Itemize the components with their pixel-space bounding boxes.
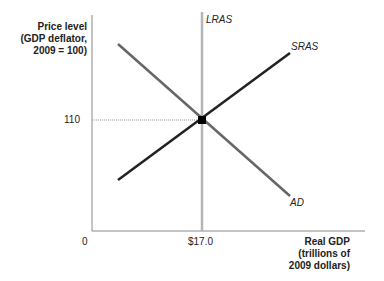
x-axis-label: Real GDP (trillions of 2009 dollars)	[270, 236, 350, 272]
equilibrium-point	[198, 116, 206, 124]
x-tick-label: $17.0	[188, 236, 213, 248]
sras-label: SRAS	[291, 41, 318, 53]
y-axis-label-line: 2009 = 100)	[0, 45, 87, 57]
y-axis-label-line: Price level	[0, 21, 87, 33]
lras-label: LRAS	[206, 14, 232, 26]
y-axis-label: Price level (GDP deflator, 2009 = 100)	[0, 21, 87, 57]
origin-label: 0	[82, 236, 88, 248]
x-axis-label-line: Real GDP	[270, 236, 350, 248]
y-tick-label: 110	[64, 114, 80, 126]
x-axis-label-line: 2009 dollars)	[270, 260, 350, 272]
x-axis-label-line: (trillions of	[270, 248, 350, 260]
ad-label: AD	[290, 197, 304, 209]
y-axis-label-line: (GDP deflator,	[0, 33, 87, 45]
